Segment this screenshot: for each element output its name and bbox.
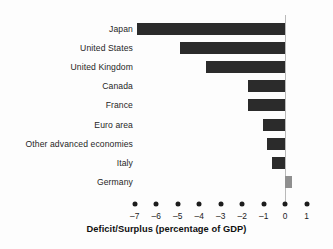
bar-france [248,99,286,111]
x-tick-dot [218,201,223,206]
x-tick-dot [240,201,245,206]
bar-row: United States [0,38,333,57]
category-label-canada: Canada [102,81,133,91]
bar-canada [248,80,286,92]
chart-container: JapanUnited StatesUnited KingdomCanadaFr… [0,0,333,249]
bar-japan [137,23,285,35]
bar-italy [272,157,285,169]
bar-row: Japan [0,19,333,38]
x-tick-label: –6 [152,211,161,221]
x-tick-label: –3 [216,211,225,221]
x-tick-label: –4 [195,211,204,221]
bar-row: Euro area [0,115,333,134]
x-tick-dot [154,201,159,206]
category-label-italy: Italy [117,158,133,168]
bar-row: Italy [0,153,333,172]
x-tick-label: –5 [173,211,182,221]
plot-area: JapanUnited StatesUnited KingdomCanadaFr… [0,0,333,249]
x-tick-dot [175,201,180,206]
bar-germany [285,176,291,188]
x-tick-label: 0 [283,211,288,221]
category-label-united-states: United States [80,43,133,53]
x-tick-dot [132,201,137,206]
x-tick-dot [261,201,266,206]
bar-united-kingdom [206,61,286,73]
x-tick-dot [304,201,309,206]
category-label-japan: Japan [109,24,133,34]
bar-row: Germany [0,173,333,192]
x-tick-label: –1 [259,211,268,221]
bar-row: Canada [0,77,333,96]
bar-euro-area [263,119,286,131]
bar-row: United Kingdom [0,57,333,76]
category-label-other-advanced-economies: Other advanced economies [26,139,134,149]
category-label-euro-area: Euro area [94,120,133,130]
bar-united-states [180,42,285,54]
x-tick-dot [283,201,288,206]
x-axis-title: Deficit/Surplus (percentage of GDP) [0,224,333,234]
bar-row: Other advanced economies [0,134,333,153]
bar-row: France [0,96,333,115]
x-tick-label: –7 [130,211,139,221]
x-tick-label: –2 [238,211,247,221]
category-label-united-kingdom: United Kingdom [70,62,133,72]
category-label-france: France [106,100,133,110]
x-tick-dot [197,201,202,206]
category-label-germany: Germany [97,177,133,187]
x-tick-label: 1 [304,211,309,221]
bar-other-advanced-economies [267,138,285,150]
